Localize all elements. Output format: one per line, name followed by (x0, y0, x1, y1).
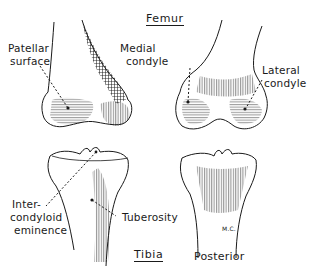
lateral-condyle-label-line1: Lateral (262, 64, 300, 76)
femur-posterior (176, 20, 268, 129)
tibia-anterior (46, 148, 128, 267)
patellar-surface-label-line1: Patellar (8, 42, 49, 54)
femur-title: Femur (146, 12, 184, 26)
patellar-surface-label-line2: surface (10, 55, 50, 67)
intercondyloid-eminence-label-line2: condyloid (10, 211, 62, 223)
posterior-title: Posterior (194, 251, 244, 263)
tibia-posterior (180, 150, 256, 259)
intercondyloid-eminence-label-line1: Inter- (12, 198, 41, 210)
lateral-condyle-label-line2: condyle (264, 77, 307, 89)
medial-condyle-label-line1: Medial (120, 42, 156, 54)
intercondyloid-eminence-label-line3: eminence (14, 224, 67, 236)
tuberosity-label: Tuberosity (122, 211, 178, 223)
medial-condyle-label-line2: condyle (126, 55, 169, 67)
knee-bones-diagram: Femur Tibia Posterior Patellar surface M… (0, 0, 312, 276)
artist-initials: M.C. (222, 223, 236, 235)
tibia-title: Tibia (134, 248, 163, 262)
femur-anterior (40, 20, 132, 127)
